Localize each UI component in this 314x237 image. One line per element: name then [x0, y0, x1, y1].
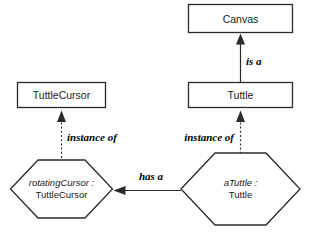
- relation-instance-of-right-label: instance of: [184, 131, 235, 143]
- relation-instance-of-right-arrowhead: [236, 111, 245, 123]
- relation-instance-of-left-label: instance of: [67, 131, 118, 143]
- object-hexagon-atuttle-line1: aTuttle :: [224, 177, 258, 188]
- class-box-canvas[interactable]: Canvas: [189, 5, 293, 33]
- relation-is-a-arrowhead: [236, 34, 245, 45]
- relation-instance-of-right[interactable]: instance of: [184, 111, 245, 159]
- class-box-tuttlecursor[interactable]: TuttleCursor: [18, 83, 106, 108]
- class-box-tuttle[interactable]: Tuttle: [189, 83, 293, 108]
- relation-is-a-label: is a: [246, 55, 262, 67]
- class-box-tuttlecursor-label: TuttleCursor: [33, 89, 91, 101]
- relation-is-a[interactable]: is a: [236, 34, 262, 83]
- object-hexagon-atuttle-line2: Tuttle: [229, 189, 252, 200]
- object-hexagon-atuttle[interactable]: aTuttle : Tuttle: [181, 153, 300, 225]
- uml-diagram: Canvas Canvas ============ --> is a Tutt…: [0, 0, 314, 237]
- class-box-tuttle-label: Tuttle: [228, 89, 254, 101]
- relation-has-a-label: has a: [139, 170, 164, 182]
- relation-has-a[interactable]: has a: [114, 170, 182, 195]
- object-hexagon-rotatingcursor[interactable]: rotatingCursor : TuttleCursor: [11, 160, 113, 218]
- object-hexagon-rotatingcursor-line2: TuttleCursor: [36, 189, 88, 200]
- object-hexagon-rotatingcursor-line1: rotatingCursor :: [29, 177, 95, 188]
- relation-instance-of-left-arrowhead: [57, 111, 66, 123]
- relation-has-a-arrowhead: [114, 186, 126, 195]
- relation-instance-of-left[interactable]: instance of: [57, 111, 118, 159]
- class-box-canvas-label: Canvas: [223, 13, 259, 25]
- diagram-canvas: Canvas Canvas ============ --> is a Tutt…: [0, 0, 314, 237]
